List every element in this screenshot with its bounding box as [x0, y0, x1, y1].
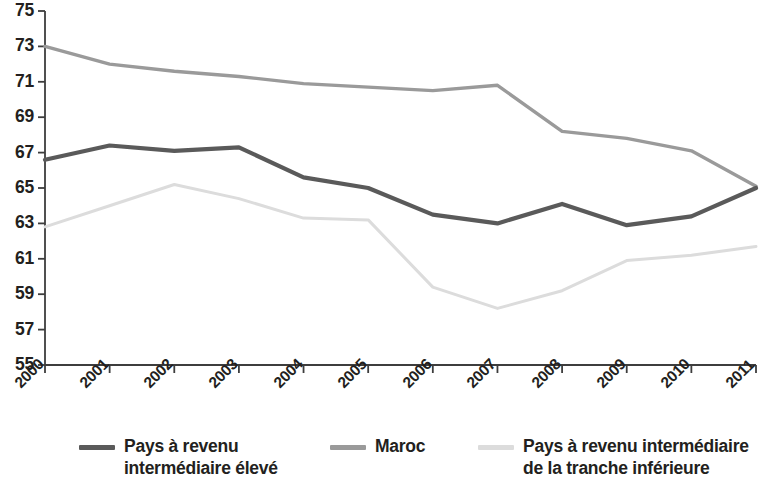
legend-swatch-lower-middle-income — [478, 445, 514, 450]
legend-label-maroc: Maroc — [375, 436, 425, 458]
axis-ticks — [38, 11, 756, 373]
legend-item-lower-middle-income: Pays à revenu intermédiaire de la tranch… — [478, 436, 768, 480]
legend-label-line2: intermédiaire élevé — [124, 458, 278, 480]
data-series-line — [45, 46, 756, 186]
y-axis-tick-label: 63 — [0, 212, 34, 233]
legend-item-upper-middle-income: Pays à revenu intermédiaire élevé — [79, 436, 294, 480]
legend-label-lower-middle-income: Pays à revenu intermédiaire de la tranch… — [523, 436, 749, 480]
legend-item-maroc: Maroc — [330, 436, 480, 458]
y-axis-tick-label: 73 — [0, 35, 34, 56]
y-axis-tick-label: 71 — [0, 71, 34, 92]
y-axis-tick-label: 57 — [0, 319, 34, 340]
y-axis-tick-label: 69 — [0, 106, 34, 127]
legend-swatch-upper-middle-income — [79, 445, 115, 450]
legend-label-line1: Pays à revenu intermédiaire — [523, 436, 749, 456]
legend-label-line1: Maroc — [375, 436, 425, 456]
legend-label-upper-middle-income: Pays à revenu intermédiaire élevé — [124, 436, 278, 480]
y-axis-tick-label: 59 — [0, 283, 34, 304]
data-series-line — [45, 146, 756, 226]
legend-label-line2: de la tranche inférieure — [523, 458, 749, 480]
legend-label-line1: Pays à revenu — [124, 436, 238, 456]
legend-swatch-maroc — [330, 445, 366, 450]
y-axis-tick-label: 67 — [0, 142, 34, 163]
y-axis-tick-label: 75 — [0, 0, 34, 21]
axis-lines — [45, 11, 756, 365]
y-axis-tick-label: 61 — [0, 248, 34, 269]
line-chart: 7573716967656361595755 20002001200220032… — [0, 0, 770, 489]
plot-area — [0, 0, 770, 489]
chart-legend: Pays à revenu intermédiaire élevé Maroc … — [0, 436, 770, 489]
data-series-group — [45, 46, 756, 308]
y-axis-tick-label: 65 — [0, 177, 34, 198]
